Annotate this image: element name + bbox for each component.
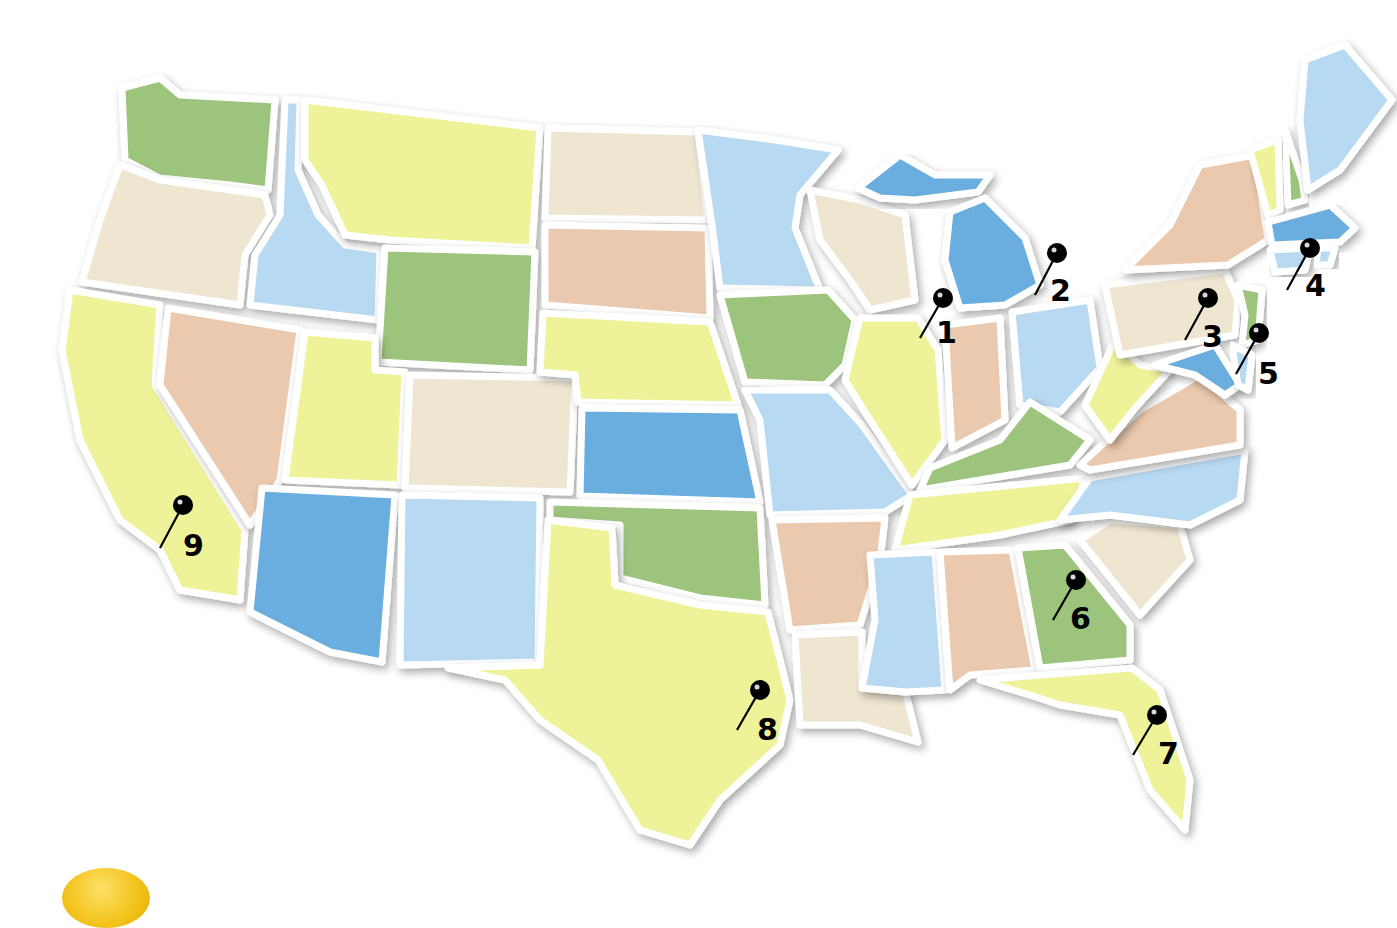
pin-highlight (1052, 248, 1057, 253)
pushpin-icon (1300, 238, 1320, 258)
state-michigan-up[interactable]: Michigan UP (858, 155, 990, 200)
pin-highlight (938, 293, 943, 298)
states-layer: WashingtonOregonCaliforniaNevadaIdahoMon… (62, 45, 1392, 845)
state-new-mexico[interactable]: New Mexico (400, 495, 540, 665)
pin-highlight (178, 500, 183, 505)
pin-number-label: 2 (1050, 273, 1071, 308)
pushpin-icon (1147, 705, 1167, 725)
state-montana[interactable]: Montana (305, 100, 540, 248)
state-maine[interactable]: Maine (1300, 45, 1392, 190)
state-mississippi[interactable]: Mississippi (862, 552, 945, 692)
lemon-decoration (62, 868, 150, 928)
state-new-york[interactable]: New York (1125, 155, 1268, 270)
pushpin-icon (933, 288, 953, 308)
pin-number-label: 1 (936, 315, 957, 350)
pin-highlight (1071, 575, 1076, 580)
state-colorado[interactable]: Colorado (405, 375, 575, 492)
pin-number-label: 8 (757, 712, 778, 747)
pin-highlight (1254, 328, 1259, 333)
pin-highlight (1203, 293, 1208, 298)
pin-number-label: 4 (1305, 268, 1326, 303)
state-kansas[interactable]: Kansas (580, 408, 760, 502)
state-arizona[interactable]: Arizona (250, 488, 395, 662)
state-north-dakota[interactable]: North Dakota (545, 128, 708, 220)
pushpin-icon (173, 495, 193, 515)
pin-highlight (1305, 243, 1310, 248)
pushpin-icon (750, 680, 770, 700)
pushpin-icon (1066, 570, 1086, 590)
state-iowa[interactable]: Iowa (720, 290, 855, 385)
pin-number-label: 6 (1070, 601, 1091, 636)
pin-number-label: 3 (1202, 319, 1223, 354)
pushpin-icon (1198, 288, 1218, 308)
pin-highlight (755, 685, 760, 690)
state-wyoming[interactable]: Wyoming (378, 248, 535, 370)
state-south-dakota[interactable]: South Dakota (545, 225, 710, 318)
pin-number-label: 9 (183, 528, 204, 563)
pushpin-icon (1249, 323, 1269, 343)
pin-number-label: 5 (1258, 356, 1279, 391)
state-michigan[interactable]: Michigan (945, 198, 1040, 308)
pin-highlight (1152, 710, 1157, 715)
pushpin-icon (1047, 243, 1067, 263)
pin-number-label: 7 (1158, 736, 1179, 771)
